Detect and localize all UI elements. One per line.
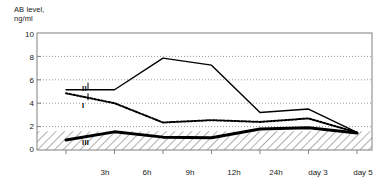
series-label-II: II — [82, 84, 87, 93]
y-axis-title: AB level, ng/ml — [14, 5, 45, 23]
series-label-I: I — [82, 101, 84, 110]
x-tick-label-24h: 24h — [259, 168, 293, 177]
y-tick-label-10: 10 — [14, 30, 34, 39]
x-tick-label-12h: 12h — [217, 168, 251, 177]
series-label-III: III — [82, 138, 89, 147]
chart-container: AB level, ng/ml 10 8 6 4 2 0 3h 6h 9h 12… — [0, 0, 387, 192]
plot-area — [0, 0, 387, 192]
x-tick-label-3h: 3h — [90, 168, 120, 177]
x-tick-label-9h: 9h — [175, 168, 205, 177]
y-tick-label-6: 6 — [14, 76, 34, 85]
y-tick-label-2: 2 — [14, 122, 34, 131]
x-tick-label-6h: 6h — [132, 168, 162, 177]
y-tick-label-4: 4 — [14, 99, 34, 108]
y-tick-label-8: 8 — [14, 53, 34, 62]
y-tick-label-0: 0 — [14, 145, 34, 154]
series-lines — [66, 58, 357, 140]
x-tick-label-day3: day 3 — [297, 168, 339, 177]
x-tick-label-day5: day 5 — [342, 168, 384, 177]
